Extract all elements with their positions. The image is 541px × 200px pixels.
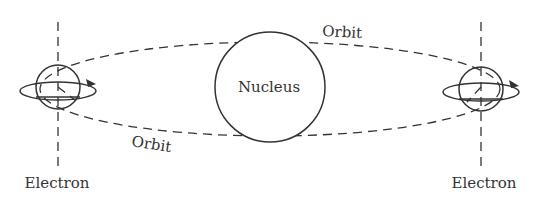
electron-label-left: Electron — [25, 174, 90, 192]
electron-right — [443, 22, 519, 168]
radius-line-left — [58, 87, 75, 100]
orbit-label-bottom: Orbit — [130, 132, 172, 156]
nucleus-label: Nucleus — [238, 78, 300, 96]
electron-label-right: Electron — [452, 174, 517, 192]
electron-left — [20, 22, 96, 168]
atom-diagram: Nucleus Orbit Orbit Electron Electron — [0, 0, 541, 200]
orbit-label-top: Orbit — [322, 22, 363, 42]
